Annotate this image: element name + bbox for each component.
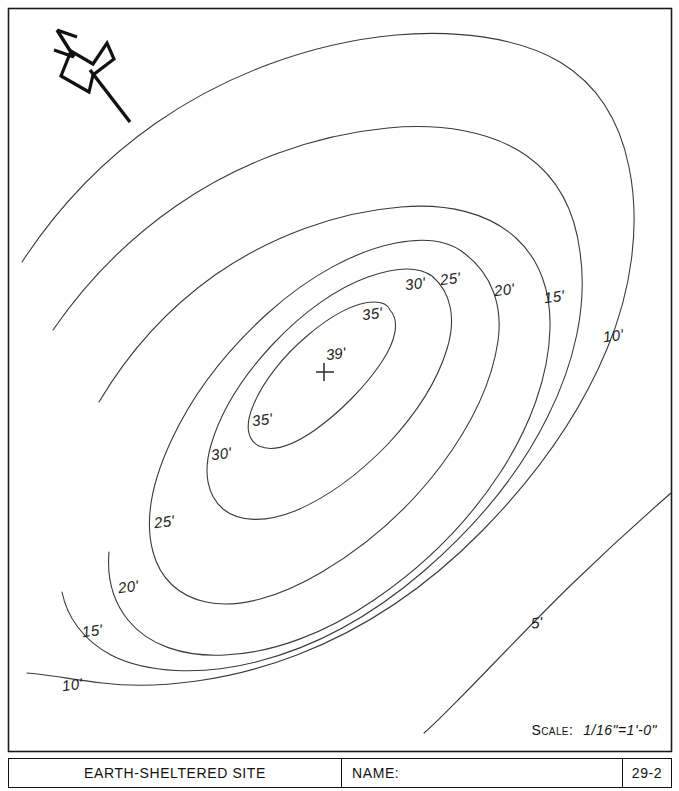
title-block-name-field[interactable]: NAME:	[342, 759, 623, 787]
spot-elevation-label: 39'	[325, 344, 347, 364]
contour-label: 25'	[153, 512, 176, 532]
contour-line-20	[99, 206, 550, 655]
contour-line-30	[207, 269, 452, 519]
contour-label: 10'	[61, 675, 84, 695]
site-contour-drawing	[0, 0, 679, 791]
spot-elevation-marker	[316, 363, 334, 381]
contour-label: 20'	[493, 280, 516, 300]
scale-value: 1/16"=1'-0"	[583, 722, 657, 738]
drawing-sheet: 35' 35' 30' 30' 25' 25' 20' 20' 15' 15' …	[0, 0, 679, 791]
scale-note: Scale:1/16"=1'-0"	[531, 722, 657, 738]
title-block-drawing-title: EARTH-SHELTERED SITE	[9, 759, 342, 787]
contour-label: 30'	[404, 274, 427, 294]
contour-label: 5'	[530, 613, 544, 631]
title-block-sheet-number: 29-2	[623, 759, 671, 787]
contour-label: 15'	[81, 621, 104, 641]
contour-label: 20'	[117, 577, 140, 597]
north-arrow-icon	[54, 30, 130, 122]
scale-caption: Scale:	[531, 722, 573, 738]
contour-label: 10'	[602, 326, 625, 346]
contour-label: 30'	[210, 444, 233, 464]
contour-line-5	[424, 493, 671, 733]
contour-label: 35'	[361, 304, 384, 324]
contour-label: 15'	[543, 287, 566, 307]
drawing-frame	[9, 9, 672, 752]
contour-label: 25'	[439, 269, 462, 289]
title-block: EARTH-SHELTERED SITE NAME: 29-2	[8, 758, 672, 788]
contour-label: 35'	[251, 410, 274, 430]
